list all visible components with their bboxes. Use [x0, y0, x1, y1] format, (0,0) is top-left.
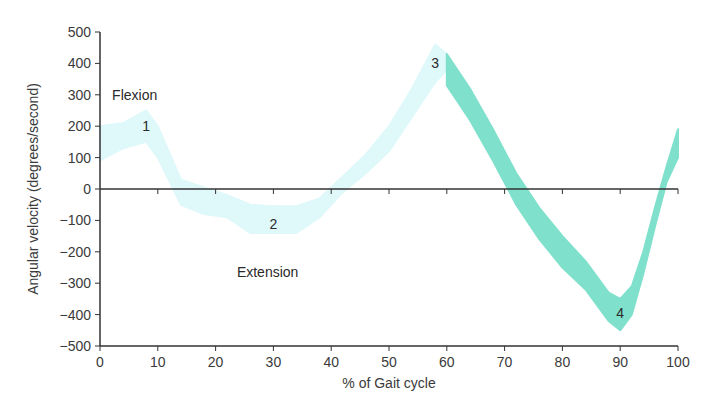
x-axis-title: % of Gait cycle [342, 375, 436, 391]
y-tick-label: 400 [68, 55, 92, 71]
y-tick-label: 500 [68, 24, 92, 40]
axes: 5004003002001000−100−200−300−400−5000102… [59, 24, 689, 370]
annotation: 3 [431, 55, 439, 71]
annotation: Flexion [112, 87, 157, 103]
annotation: Extension [237, 264, 298, 280]
y-tick-label: 100 [68, 150, 92, 166]
x-tick-label: 70 [497, 354, 513, 370]
annotation: 2 [270, 216, 278, 232]
x-tick-label: 90 [612, 354, 628, 370]
y-tick-label: −200 [59, 244, 91, 260]
x-tick-label: 50 [381, 354, 397, 370]
x-tick-label: 100 [666, 354, 690, 370]
x-tick-label: 80 [555, 354, 571, 370]
y-tick-label: −500 [59, 338, 91, 354]
annotation: 1 [142, 118, 150, 134]
band-0 [100, 45, 447, 233]
gait-angular-velocity-chart: 5004003002001000−100−200−300−400−5000102… [0, 0, 703, 415]
annotation: 4 [616, 305, 624, 321]
x-tick-label: 0 [96, 354, 104, 370]
y-tick-label: 0 [83, 181, 91, 197]
x-tick-label: 30 [266, 354, 282, 370]
data-bands [100, 45, 678, 331]
x-tick-label: 20 [208, 354, 224, 370]
y-tick-label: −300 [59, 275, 91, 291]
x-tick-label: 10 [150, 354, 166, 370]
x-tick-label: 60 [439, 354, 455, 370]
x-tick-label: 40 [323, 354, 339, 370]
y-axis-title: Angular velocity (degrees/second) [25, 83, 41, 295]
y-tick-label: 200 [68, 118, 92, 134]
y-tick-label: −100 [59, 212, 91, 228]
y-tick-label: 300 [68, 87, 92, 103]
y-tick-label: −400 [59, 307, 91, 323]
